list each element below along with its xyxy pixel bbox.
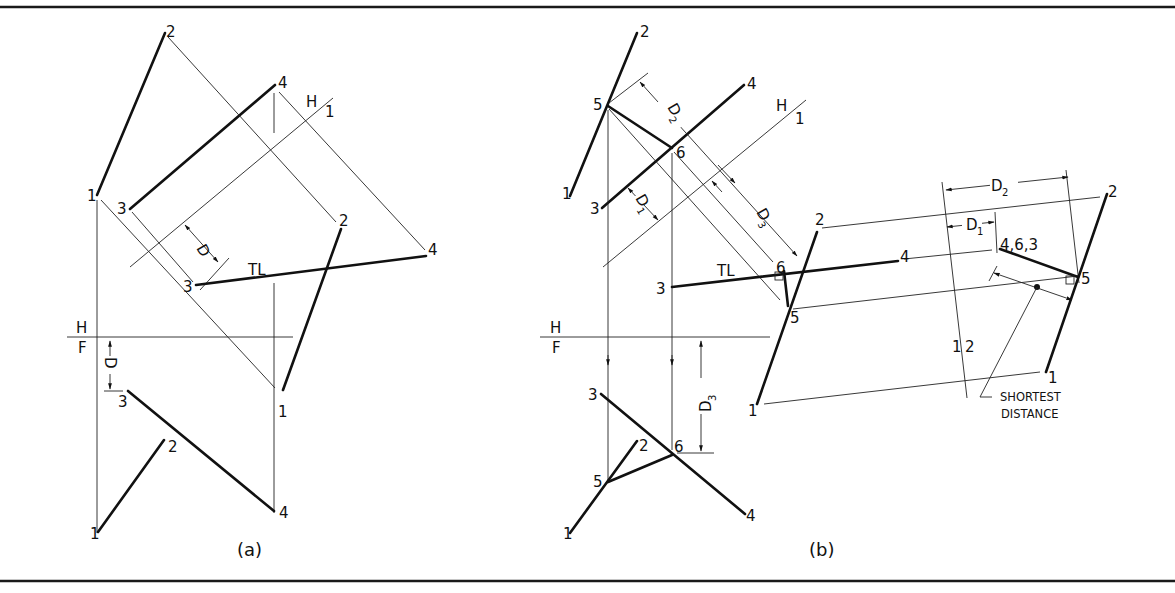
svg-text:TL: TL — [716, 262, 735, 280]
svg-text:4: 4 — [279, 504, 289, 522]
svg-text:5: 5 — [1081, 270, 1091, 288]
aux-view-line-1-2 — [757, 232, 817, 404]
svg-text:4: 4 — [747, 75, 757, 93]
svg-text:3: 3 — [656, 280, 666, 298]
point-view-label: 4,6,3 — [1000, 236, 1038, 254]
svg-text:3: 3 — [707, 395, 718, 401]
svg-text:2: 2 — [166, 23, 176, 41]
svg-text:3: 3 — [588, 386, 598, 404]
svg-text:1: 1 — [563, 525, 573, 543]
svg-text:H: H — [306, 93, 317, 111]
aux-view-line-1-2 — [283, 229, 341, 390]
front-view-line-3-4 — [128, 391, 274, 511]
svg-text:3: 3 — [117, 200, 127, 218]
caption-a: (a) — [237, 539, 262, 560]
svg-text:D: D — [193, 241, 214, 260]
svg-text:H: H — [550, 319, 561, 337]
svg-text:2: 2 — [168, 438, 178, 456]
top-view-line-1-2 — [97, 33, 165, 195]
svg-text:2: 2 — [815, 211, 825, 229]
svg-text:D: D — [991, 177, 1003, 195]
fold-line-1-2 — [942, 182, 967, 398]
svg-text:1: 1 — [1048, 369, 1058, 387]
svg-text:5: 5 — [593, 473, 603, 491]
secondary-aux-view-line-1-2 — [1046, 194, 1107, 372]
front-view-line-3-4 — [601, 394, 745, 514]
panel-a-labels: 2 4 H 1 1 3 2 4 3 TL D H F D 3 1 2 4 1 (… — [76, 23, 438, 560]
svg-text:1: 1 — [90, 525, 100, 543]
svg-text:F: F — [552, 339, 561, 357]
top-view-line-3-4 — [130, 85, 275, 209]
caption-b: (b) — [809, 539, 834, 560]
top-view-line-1-2 — [570, 33, 637, 196]
svg-text:1: 1 — [748, 402, 758, 420]
svg-text:H: H — [76, 319, 87, 337]
svg-text:3: 3 — [590, 200, 600, 218]
svg-text:H: H — [776, 97, 787, 115]
svg-text:6: 6 — [676, 144, 686, 162]
svg-text:6: 6 — [674, 438, 684, 456]
descriptive-geometry-figure: 2 4 H 1 1 3 2 4 3 TL D H F D 3 1 2 4 1 (… — [0, 0, 1175, 593]
svg-text:1: 1 — [977, 226, 983, 237]
front-view-line-1-2 — [98, 440, 164, 532]
svg-text:D: D — [966, 216, 978, 234]
svg-text:3: 3 — [118, 393, 128, 411]
svg-text:1: 1 — [87, 187, 97, 205]
svg-text:2: 2 — [1002, 187, 1008, 198]
panel-b-labels: 2 4 H 1 5 D 2 6 1 3 D 1 D 3 2 6 4 TL 3 5… — [550, 23, 1118, 560]
svg-text:5: 5 — [790, 309, 800, 327]
svg-text:2: 2 — [639, 437, 649, 455]
svg-text:4: 4 — [428, 241, 438, 259]
svg-text:2: 2 — [640, 23, 650, 41]
svg-text:2: 2 — [965, 338, 975, 356]
aux-view-true-length-line — [196, 256, 426, 285]
svg-text:4: 4 — [746, 507, 756, 525]
svg-text:D: D — [101, 357, 119, 369]
svg-text:D: D — [697, 400, 715, 412]
panel-a — [67, 33, 426, 533]
fold-line-h-1 — [603, 100, 806, 267]
svg-text:6: 6 — [776, 259, 786, 277]
svg-text:1: 1 — [325, 103, 335, 121]
svg-text:2: 2 — [1108, 183, 1118, 201]
svg-text:4: 4 — [900, 248, 910, 266]
front-view-line-1-2 — [570, 441, 637, 533]
svg-text:5: 5 — [593, 96, 603, 114]
svg-text:1: 1 — [952, 338, 962, 356]
svg-text:DISTANCE: DISTANCE — [1001, 407, 1058, 421]
svg-text:4: 4 — [278, 74, 288, 92]
svg-text:1: 1 — [795, 110, 805, 128]
svg-text:1: 1 — [562, 185, 572, 203]
svg-text:1: 1 — [278, 403, 288, 421]
panel-b — [540, 33, 1107, 533]
shortest-distance-note: SHORTEST — [1000, 390, 1062, 404]
svg-text:2: 2 — [339, 212, 349, 230]
svg-text:TL: TL — [247, 261, 266, 279]
svg-text:3: 3 — [183, 278, 193, 296]
svg-text:F: F — [78, 339, 87, 357]
